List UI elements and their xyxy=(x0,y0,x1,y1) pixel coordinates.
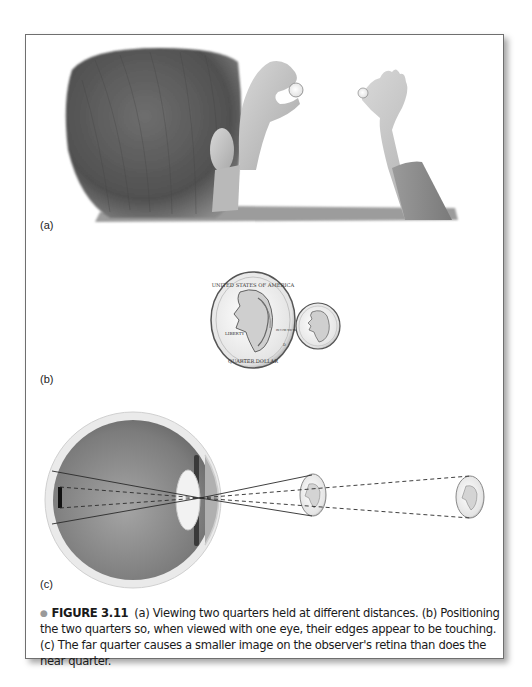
near-quarter-a xyxy=(289,83,303,97)
near-quarter-c xyxy=(300,474,326,516)
panel-c-illustration xyxy=(45,412,484,588)
coin-top-text: UNITED STATES OF AMERICA xyxy=(212,282,295,288)
figure-number: FIGURE 3.11 xyxy=(52,606,129,620)
panel-label-a: (a) xyxy=(40,219,53,231)
panel-b-illustration: UNITED STATES OF AMERICA LIBERTY IN GOD … xyxy=(211,272,340,368)
retinal-image xyxy=(58,487,62,508)
panel-label-b: (b) xyxy=(40,373,53,385)
near-hand xyxy=(239,61,300,170)
neck xyxy=(212,165,240,212)
coin-liberty-text: LIBERTY xyxy=(225,331,244,336)
far-quarter-a xyxy=(358,88,368,98)
figure-illustration: UNITED STATES OF AMERICA LIBERTY IN GOD … xyxy=(0,0,532,687)
far-quarter-b xyxy=(296,303,340,349)
ear xyxy=(210,128,234,172)
panel-a-illustration xyxy=(66,48,458,222)
caption-bullet: ● xyxy=(40,608,48,618)
coin-mint-mark: D xyxy=(283,343,286,347)
panel-label-c: (c) xyxy=(40,578,53,590)
far-quarter-c xyxy=(456,476,484,518)
figure-caption: ●FIGURE 3.11(a) Viewing two quarters hel… xyxy=(40,605,500,669)
coin-bottom-text: QUARTER DOLLAR xyxy=(228,358,278,364)
